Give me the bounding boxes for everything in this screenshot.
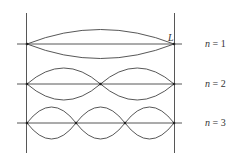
node-dot — [124, 122, 127, 125]
mode-label-n1: n = 1 — [205, 38, 226, 49]
node-dot — [173, 43, 176, 46]
node-dot — [99, 83, 102, 86]
node-dot — [173, 83, 176, 86]
node-dot — [26, 43, 29, 46]
node-dot — [173, 122, 176, 125]
node-dot — [26, 122, 29, 125]
node-dot — [26, 83, 29, 86]
node-dot — [75, 122, 78, 125]
end-label: L — [167, 32, 174, 43]
mode-label-n2: n = 2 — [205, 78, 226, 89]
standing-wave-diagram: L n = 1 n = 2 n = 3 — [0, 0, 240, 165]
mode-label-n3: n = 3 — [205, 117, 226, 128]
